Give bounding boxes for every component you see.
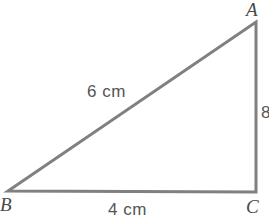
triangle-shape	[0, 0, 269, 223]
vertex-label-a: A	[246, 0, 258, 19]
triangle-diagram-canvas: A B C 6 cm 4 cm 8	[0, 0, 269, 223]
side-length-label-hypotenuse: 6 cm	[87, 83, 126, 100]
triangle-outline	[8, 22, 256, 192]
vertex-label-b: B	[0, 195, 12, 214]
side-length-label-base: 4 cm	[108, 201, 147, 218]
vertex-label-c: C	[246, 197, 259, 216]
side-length-label-vertical: 8	[261, 104, 269, 121]
